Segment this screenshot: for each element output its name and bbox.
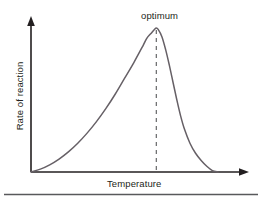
y-axis-arrowhead-icon — [27, 16, 35, 26]
enzyme-rate-temperature-figure: optimum Temperature Rate of reaction — [0, 0, 262, 203]
optimum-annotation-label: optimum — [141, 11, 178, 21]
chart-canvas — [0, 0, 262, 203]
y-axis-label: Rate of reaction — [15, 62, 25, 131]
y-axis — [27, 16, 35, 172]
rate-of-reaction-curve — [31, 28, 218, 172]
x-axis-arrowhead-icon — [239, 168, 249, 176]
x-axis-label: Temperature — [107, 179, 161, 189]
